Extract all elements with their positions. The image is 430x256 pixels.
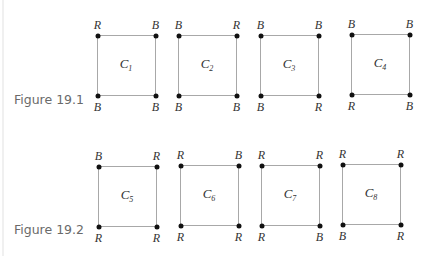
vertex-dot [153,33,158,38]
vertex-dot [236,223,241,228]
vertex-color-label: R [258,231,265,243]
vertex-color-label: B [175,19,182,31]
figure-label: Figure 19.2 [14,222,84,237]
vertex-dot [316,33,321,38]
vertex-color-label: B [175,101,182,113]
square-label-index: 5 [129,195,133,204]
vertex-color-label: B [233,101,240,113]
vertex-dot [407,92,412,97]
square-label-letter: C [121,187,130,202]
vertex-color-label: R [177,231,184,243]
vertex-color-label: B [316,231,323,243]
square-label-index: 3 [291,64,295,73]
vertex-color-label: R [177,149,184,161]
vertex-dot [349,32,354,37]
vertex-dot [258,33,263,38]
square-label-index: 2 [209,64,213,73]
vertex-dot [236,163,241,168]
vertex-dot [178,163,183,168]
vertex-dot [349,92,354,97]
vertex-dot [258,93,263,98]
vertex-color-label: B [152,101,159,113]
vertex-color-label: R [316,149,323,161]
vertex-dot [340,222,345,227]
vertex-dot [398,222,403,227]
square-label-index: 1 [128,64,132,73]
vertex-color-label: R [397,230,404,242]
vertex-dot [234,93,239,98]
vertex-dot [259,223,264,228]
vertex-dot [259,163,264,168]
square-label-index: 4 [382,63,386,72]
square-label: C1 [120,57,133,73]
vertex-dot [96,164,101,169]
vertex-dot [316,93,321,98]
square-label-index: 6 [211,194,215,203]
vertex-dot [176,33,181,38]
vertex-dot [317,163,322,168]
vertex-color-label: B [235,149,242,161]
square-label-letter: C [201,56,210,71]
square-label: C8 [365,186,378,202]
vertex-dot [154,224,159,229]
vertex-color-label: R [348,100,355,112]
page-left-edge [2,0,4,256]
square-label-letter: C [203,186,212,201]
vertex-color-label: B [152,19,159,31]
vertex-dot [95,33,100,38]
vertex-color-label: R [95,232,102,244]
vertex-color-label: B [257,19,264,31]
vertex-dot [317,223,322,228]
square-label: C2 [201,57,214,73]
square-label: C7 [284,187,297,203]
square-label: C3 [283,57,296,73]
vertex-dot [176,93,181,98]
square-label-letter: C [284,186,293,201]
vertex-dot [153,93,158,98]
square-label-index: 7 [292,194,296,203]
square-label-index: 8 [373,193,377,202]
square-label-letter: C [283,56,292,71]
vertex-color-label: R [94,19,101,31]
vertex-color-label: R [233,19,240,31]
vertex-dot [340,162,345,167]
vertex-color-label: R [315,101,322,113]
vertex-dot [234,33,239,38]
vertex-color-label: B [94,101,101,113]
vertex-color-label: B [95,150,102,162]
vertex-color-label: R [397,148,404,160]
vertex-dot [398,162,403,167]
vertex-color-label: R [339,148,346,160]
figure-label: Figure 19.1 [14,92,84,107]
vertex-color-label: R [235,231,242,243]
vertex-color-label: B [315,19,322,31]
vertex-color-label: B [406,100,413,112]
vertex-color-label: B [339,230,346,242]
square-label: C5 [121,188,134,204]
vertex-dot [95,93,100,98]
square-label-letter: C [365,185,374,200]
vertex-color-label: B [348,18,355,30]
square-label-letter: C [120,56,129,71]
vertex-dot [96,224,101,229]
square-label: C4 [374,56,387,72]
vertex-color-label: R [258,149,265,161]
vertex-color-label: R [153,150,160,162]
vertex-color-label: B [406,18,413,30]
vertex-dot [178,223,183,228]
vertex-color-label: B [257,101,264,113]
vertex-dot [407,32,412,37]
vertex-color-label: R [153,232,160,244]
vertex-dot [154,164,159,169]
square-label-letter: C [374,55,383,70]
square-label: C6 [203,187,216,203]
